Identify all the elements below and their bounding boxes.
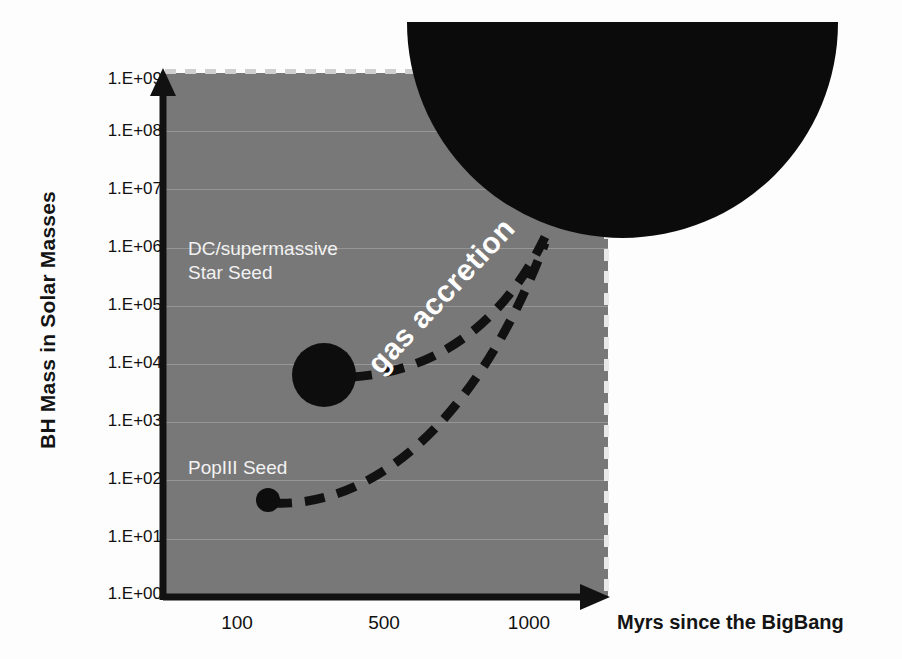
y-axis-title: BH Mass in Solar Masses [36, 60, 60, 580]
chart-figure: DC/supermassive Star Seed PopIII Seed ga… [0, 0, 902, 659]
x-tick-label: 500 [368, 612, 400, 634]
x-axis-title: Myrs since the BigBang [617, 611, 844, 634]
x-tick-label: 100 [221, 612, 253, 634]
x-tick-label: 1000 [508, 612, 550, 634]
x-axis-tick-labels: 100 500 1000 [0, 0, 902, 659]
